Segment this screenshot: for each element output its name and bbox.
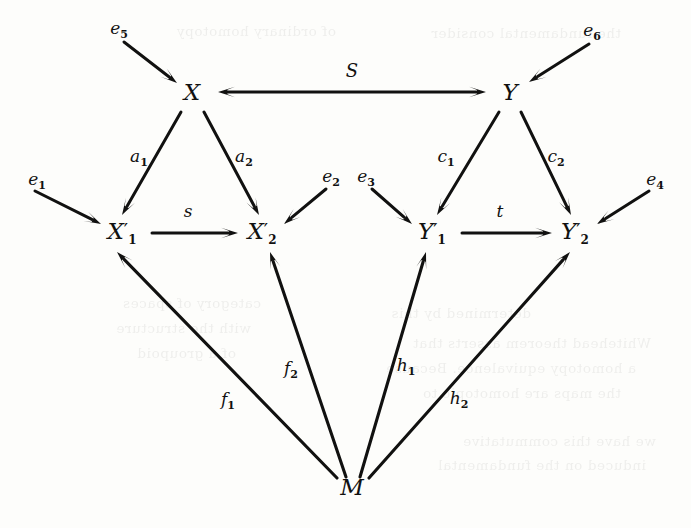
edge-label-subscript: 2 [332,176,340,189]
edge-h1 [360,252,426,477]
edge-label-symbol: c [547,146,557,166]
edge-label-subscript: 2 [245,156,253,169]
edge-label-symbol: e [646,169,656,189]
node-Y: Υ [502,79,517,105]
edge-f1 [117,252,337,478]
edge-label-a1: a1 [130,146,148,169]
node-symbol: X [247,218,263,244]
edge-label-subscript: 1 [408,365,416,378]
edge-t [462,228,552,238]
edge-label-symbol: h [450,388,461,408]
edge-shaft [292,189,326,217]
node-M: M [340,474,364,500]
edge-label-h2: h2 [450,388,469,411]
edge-label-symbol: e [583,20,593,40]
node-symbol: X [107,218,123,244]
node-subscript: 2 [268,233,276,247]
edge-label-e2: e2 [322,166,340,189]
edge-label-symbol: a [235,146,245,166]
edge-label-symbol: e [322,166,332,186]
edge-label-e4: e4 [646,169,664,192]
edge-label-subscript: 5 [120,28,128,41]
edge-label-a2: a2 [235,146,253,169]
edge-label-symbol: c [437,146,447,166]
edge-label-subscript: 2 [290,368,298,381]
edge-e4 [597,191,649,224]
node-Y2p: Υ′2 [561,218,589,247]
node-symbol: Υ [418,218,433,244]
edge-label-S: S [346,60,358,81]
node-X2p: X′2 [247,218,276,247]
edge-e3 [372,189,412,224]
edge-label-symbol: t [497,201,504,221]
edge-label-symbol: S [346,60,358,81]
edge-label-symbol: e [28,169,38,189]
edge-label-c2: c2 [547,146,564,169]
node-subscript: 1 [128,233,136,247]
edge-e6 [529,44,589,82]
edge-S [218,87,486,97]
edge-e1 [35,191,101,224]
edge-f2 [270,252,346,477]
node-symbol: Υ [561,218,576,244]
edge-e2 [284,189,326,224]
edge-label-e1: e1 [28,169,46,192]
edge-label-subscript: 6 [593,30,601,43]
edge-label-symbol: s [184,201,193,221]
edge-shaft [372,189,404,217]
node-subscript: 1 [438,233,446,247]
node-Y1p: Υ′1 [418,218,446,247]
edge-label-t: t [497,201,504,221]
node-X: X [184,79,200,105]
node-symbol: M [340,474,364,500]
node-X1p: X′1 [107,218,136,247]
edge-label-subscript: 1 [227,399,235,412]
edge-label-symbol: e [357,166,367,186]
node-subscript: 2 [581,233,589,247]
edge-label-subscript: 1 [140,156,148,169]
edge-label-subscript: 3 [367,176,375,189]
node-symbol: X [184,79,200,105]
edge-label-symbol: h [397,355,408,375]
edge-label-subscript: 2 [557,156,565,169]
edge-label-symbol: a [130,146,140,166]
edge-label-f2: f2 [284,358,298,381]
node-symbol: Υ [502,79,517,105]
edge-label-c1: c1 [437,146,454,169]
edge-label-e5: e5 [110,18,128,41]
edge-label-subscript: 4 [656,179,664,192]
edge-label-symbol: e [110,18,120,38]
edge-e5 [124,42,177,83]
edge-label-f1: f1 [221,389,235,412]
edge-s [152,228,238,238]
edge-label-subscript: 1 [38,179,46,192]
edge-shaft [124,259,337,478]
edge-label-e6: e6 [583,20,601,43]
edge-shaft [124,42,169,77]
edge-label-e3: e3 [357,166,375,189]
edge-shaft [606,191,649,219]
diagram-page: the fundamental considerof ordinary homo… [0,0,691,528]
edge-label-s: s [184,201,193,221]
edge-label-subscript: 2 [461,398,469,411]
edge-label-subscript: 1 [447,156,455,169]
edge-shaft [538,44,589,77]
edge-shaft [35,191,92,219]
edge-label-h1: h1 [397,355,416,378]
